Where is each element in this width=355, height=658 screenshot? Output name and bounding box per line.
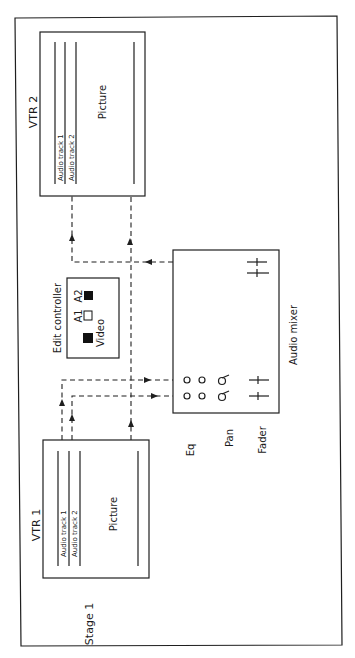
arrow-left-icon xyxy=(145,259,152,265)
eq-label: Eq xyxy=(185,444,196,457)
path-vtr1-audio1-to-mixer xyxy=(62,380,173,440)
vtr2-title: VTR 2 xyxy=(27,96,40,128)
path-mixer-to-vtr2-audio xyxy=(72,196,173,262)
video-button[interactable] xyxy=(83,333,93,343)
edit-controller: Edit controller A2 A1 Video xyxy=(52,278,119,358)
master-fader-1[interactable] xyxy=(247,258,267,266)
mixer-channel-1 xyxy=(184,375,269,385)
vtr1-title: VTR 1 xyxy=(30,509,43,541)
arrow-up-icon xyxy=(59,399,65,406)
arrow-up-icon xyxy=(69,414,75,421)
stage-label: Stage 1 xyxy=(83,603,96,645)
a2-button[interactable] xyxy=(84,291,93,300)
eq-knob-1a[interactable] xyxy=(184,377,190,383)
path-vtr1-audio2-to-mixer xyxy=(72,396,173,440)
fader-2[interactable] xyxy=(249,392,269,400)
arrow-right-icon xyxy=(144,377,151,383)
a2-label: A2 xyxy=(73,289,84,302)
fader-label: Fader xyxy=(257,425,268,453)
arrow-up-icon xyxy=(69,234,75,241)
vtr2-audio-track-2-label: Audio track 2 xyxy=(68,134,76,181)
eq-knob-2a[interactable] xyxy=(184,393,190,399)
video-label: Video xyxy=(95,319,106,347)
stage-diagram: Audio track 1 Audio track 2 Picture VTR … xyxy=(0,0,355,658)
arrow-up-icon xyxy=(127,238,133,245)
eq-knob-2b[interactable] xyxy=(199,393,205,399)
vtr1-box xyxy=(43,440,149,578)
master-fader-2[interactable] xyxy=(247,269,269,277)
pan-knob-2[interactable] xyxy=(219,391,230,401)
pan-knob-1[interactable] xyxy=(219,375,230,385)
vtr2-audio-track-1-label: Audio track 1 xyxy=(57,134,65,181)
audio-mixer: Audio mixer xyxy=(173,250,299,456)
audio-mixer-box xyxy=(173,250,279,413)
vtr1-audio-track-2-label: Audio track 2 xyxy=(71,510,79,557)
vtr2-picture-label: Picture xyxy=(97,85,108,119)
a1-button[interactable] xyxy=(84,311,92,320)
fader-1[interactable] xyxy=(249,376,269,384)
vtr1-audio-track-1-label: Audio track 1 xyxy=(60,510,68,557)
eq-knob-1b[interactable] xyxy=(199,377,205,383)
edit-controller-title: Edit controller xyxy=(52,282,63,353)
mixer-channel-2 xyxy=(184,391,269,401)
arrow-up-icon xyxy=(128,420,134,427)
vtr2: Audio track 1 Audio track 2 Picture VTR … xyxy=(27,32,145,196)
vtr1: Audio track 1 Audio track 2 Picture VTR … xyxy=(30,440,149,578)
a1-label: A1 xyxy=(73,309,84,322)
vtr1-picture-label: Picture xyxy=(108,497,119,531)
audio-mixer-title: Audio mixer xyxy=(288,304,299,365)
arrow-right-icon xyxy=(151,393,158,399)
pan-label: Pan xyxy=(224,429,235,447)
vtr2-box xyxy=(40,32,145,196)
